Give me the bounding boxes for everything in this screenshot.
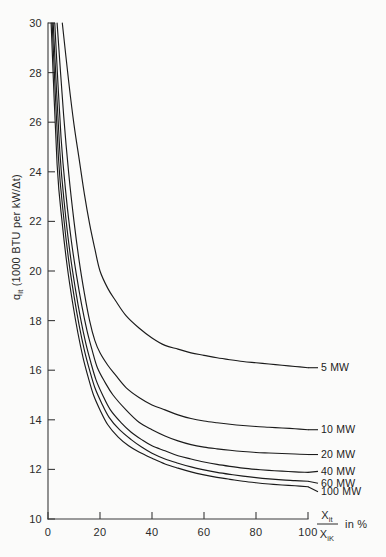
x-tick-label: 0	[45, 526, 51, 538]
series-leader-lines	[308, 368, 318, 492]
series-label: 5 MW	[321, 361, 349, 373]
series-labels: 5 MW10 MW20 MW40 MW60 MW100 MW	[321, 361, 361, 497]
y-tick-label: 22	[29, 215, 42, 227]
series-leader-line	[308, 487, 318, 492]
y-tick-label: 18	[29, 315, 42, 327]
series-curve	[51, 23, 308, 487]
svg-text:qit (1000 BTU per kW/Δt): qit (1000 BTU per kW/Δt)	[10, 174, 25, 300]
series-curve	[52, 23, 308, 481]
series-curves	[51, 23, 308, 487]
y-tick-label: 26	[29, 116, 42, 128]
y-tick-label: 16	[29, 364, 42, 376]
x-title-suffix: in %	[345, 518, 367, 530]
series-leader-line	[308, 471, 318, 472]
x-tick-label: 40	[146, 526, 159, 538]
series-curve	[62, 23, 308, 368]
svg-text:XiK: XiK	[320, 528, 335, 543]
y-tick-label: 24	[29, 166, 42, 178]
x-tick-label: 80	[250, 526, 263, 538]
line-chart: 1012141618202224262830020406080100 5 MW1…	[0, 0, 386, 557]
x-tick-label: 100	[298, 526, 317, 538]
axis-tick-labels: 1012141618202224262830020406080100	[29, 17, 317, 538]
x-title-num-sub: it	[329, 515, 334, 524]
series-label: 20 MW	[321, 448, 355, 460]
series-leader-line	[308, 481, 318, 483]
x-axis-title: Xit XiK in %	[317, 509, 367, 543]
chart-page: 1012141618202224262830020406080100 5 MW1…	[0, 0, 386, 557]
series-label: 100 MW	[321, 485, 361, 497]
y-tick-label: 20	[29, 265, 42, 277]
y-tick-label: 12	[29, 463, 42, 475]
x-title-den-sub: iK	[327, 534, 334, 543]
series-curve	[57, 23, 308, 430]
series-label: 10 MW	[321, 423, 355, 435]
x-tick-label: 20	[94, 526, 107, 538]
series-label: 40 MW	[321, 465, 355, 477]
svg-text:Xit: Xit	[321, 509, 333, 524]
y-tick-label: 14	[29, 414, 42, 426]
series-curve	[53, 23, 308, 472]
y-tick-label: 30	[29, 17, 42, 29]
y-tick-label: 28	[29, 67, 42, 79]
y-title-rest: (1000 BTU per kW/Δt)	[10, 174, 22, 289]
axes	[48, 23, 308, 519]
y-tick-label: 10	[29, 513, 42, 525]
y-axis-title: qit (1000 BTU per kW/Δt)	[10, 174, 25, 300]
x-tick-label: 60	[198, 526, 211, 538]
axis-ticks	[48, 23, 308, 519]
